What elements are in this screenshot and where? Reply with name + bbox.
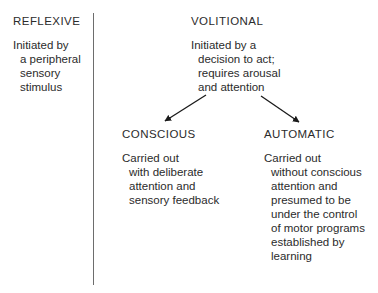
description-reflexive: Initiated by a peripheral sensory stimul…: [13, 38, 81, 94]
text-line: a peripheral: [13, 52, 81, 66]
text-line: without conscious: [264, 165, 365, 179]
text-line: decision to act;: [191, 52, 280, 66]
text-line: with deliberate: [122, 165, 219, 179]
text-line: established by: [264, 235, 365, 249]
text-line: sensory: [13, 66, 81, 80]
heading-conscious: CONSCIOUS: [122, 128, 196, 141]
arrow-volitional-to-conscious: [165, 95, 206, 121]
text-line: Carried out: [122, 151, 219, 165]
text-line: Carried out: [264, 151, 365, 165]
heading-automatic: AUTOMATIC: [264, 128, 335, 141]
arrow-volitional-to-automatic: [261, 96, 299, 122]
description-conscious: Carried out with deliberate attention an…: [122, 151, 219, 207]
heading-reflexive: REFLEXIVE: [13, 15, 80, 28]
text-line: attention and: [264, 179, 365, 193]
text-line: and attention: [191, 80, 280, 94]
heading-volitional: VOLITIONAL: [191, 15, 263, 28]
text-line: requires arousal: [191, 66, 280, 80]
column-divider: [93, 13, 94, 285]
text-line: attention and: [122, 179, 219, 193]
text-line: under the control: [264, 207, 365, 221]
text-line: presumed to be: [264, 193, 365, 207]
description-automatic: Carried out without conscious attention …: [264, 151, 365, 263]
text-line: learning: [264, 249, 365, 263]
text-line: stimulus: [13, 80, 81, 94]
text-line: sensory feedback: [122, 193, 219, 207]
text-line: Initiated by a: [191, 38, 280, 52]
flow-diagram: REFLEXIVE Initiated by a peripheral sens…: [0, 0, 378, 293]
description-volitional: Initiated by a decision to act; requires…: [191, 38, 280, 94]
text-line: of motor programs: [264, 221, 365, 235]
text-line: Initiated by: [13, 38, 81, 52]
